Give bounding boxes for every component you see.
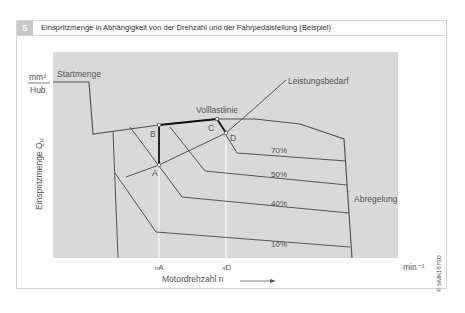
y-axis-label: Einspritzmenge QH [34,138,45,210]
point-C-label: C [208,123,214,133]
diagram: B A C D Startmenge Volllastlinie Leistun… [0,0,465,313]
pedal-70-label: 70% [271,146,287,155]
arrow-right-icon [270,279,276,283]
y-unit-numerator: mm³ [29,72,46,82]
point-B-label: B [150,129,156,139]
pedal-50-label: 50% [271,170,287,179]
point-D-marker [224,131,228,135]
x-unit: min⁻¹ [403,262,425,272]
y-unit-denominator: Hub [30,85,46,95]
point-A-marker [157,163,161,167]
x-axis-label: Motordrehzahl n [162,274,224,284]
svg-text:© SMK1876D: © SMK1876D [436,255,442,292]
pedal-40-label: 40% [271,199,287,208]
point-C-marker [215,117,219,121]
startmenge-label: Startmenge [57,69,101,79]
point-B-marker [157,123,161,127]
leistungsbedarf-label: Leistungsbedarf [288,76,349,86]
point-A-label: A [152,168,158,178]
point-D-label: D [230,133,236,143]
credit: © SMK1876D [436,255,442,292]
x-tick-nA: nA [155,263,164,272]
pedal-10-label: 10% [271,240,287,249]
volllastlinie-label: Volllastlinie [196,105,238,115]
abregelung-label: Abregelung [354,194,398,204]
svg-text:Einspritzmenge QH: Einspritzmenge QH [34,138,45,210]
x-tick-nD: nD [222,263,231,272]
